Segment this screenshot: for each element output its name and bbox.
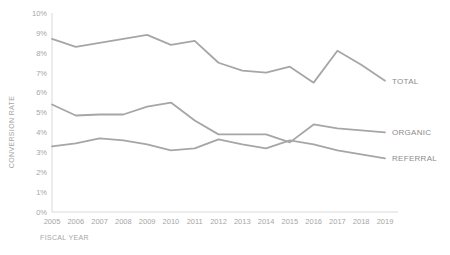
x-tick-label-2005: 2005 [44,217,61,226]
y-tick-label-3pct: 3% [36,148,47,157]
series-line-total [52,35,385,83]
x-tick-label-2017: 2017 [329,217,346,226]
y-tick-label-1pct: 1% [36,188,47,197]
y-tick-label-7pct: 7% [36,69,47,78]
x-tick-label-2006: 2006 [67,217,84,226]
y-tick-label-10pct: 10% [32,9,47,18]
chart-canvas: 0%1%2%3%4%5%6%7%8%9%10% 2005200620072008… [0,0,450,255]
y-tick-label-6pct: 6% [36,88,47,97]
x-tick-label-2011: 2011 [187,217,203,226]
x-axis-tick-labels: 2005200620072008200920102011201220132014… [44,217,394,226]
y-tick-label-5pct: 5% [36,108,47,117]
series-label-referral: REFERRAL [392,154,437,163]
x-tick-label-2018: 2018 [353,217,370,226]
series-label-organic: ORGANIC [392,128,431,137]
y-tick-label-8pct: 8% [36,49,47,58]
x-tick-label-2008: 2008 [115,217,132,226]
x-tick-label-2009: 2009 [139,217,156,226]
conversion-rate-line-chart: 0%1%2%3%4%5%6%7%8%9%10% 2005200620072008… [0,0,450,255]
x-axis-title: FISCAL YEAR [40,234,89,241]
x-tick-label-2016: 2016 [305,217,322,226]
series-label-total: TOTAL [392,77,419,86]
x-tick-label-2012: 2012 [210,217,227,226]
x-tick-label-2014: 2014 [258,217,275,226]
y-tick-label-2pct: 2% [36,168,47,177]
series-line-referral [52,138,385,158]
x-tick-label-2013: 2013 [234,217,251,226]
x-tick-label-2019: 2019 [377,217,394,226]
x-tick-label-2007: 2007 [91,217,108,226]
y-tick-label-0pct: 0% [36,208,47,217]
series-end-labels: TOTALORGANICREFERRAL [392,77,437,164]
series-lines-group [52,35,385,158]
series-line-organic [52,103,385,143]
y-tick-label-4pct: 4% [36,128,47,137]
y-tick-label-9pct: 9% [36,29,47,38]
x-tick-label-2015: 2015 [282,217,299,226]
y-axis-title: CONVERSION RATE [8,96,15,168]
x-tick-label-2010: 2010 [163,217,180,226]
y-axis-tick-labels: 0%1%2%3%4%5%6%7%8%9%10% [32,9,47,217]
